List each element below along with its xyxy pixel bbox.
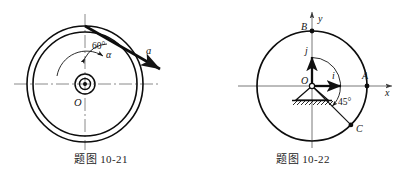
point-b-label: B bbox=[301, 21, 307, 32]
point-c-label: C bbox=[356, 123, 363, 134]
x-axis-label: x bbox=[384, 87, 390, 98]
figure-10-21-canvas: 60° α a O bbox=[0, 0, 202, 150]
unit-vector-i-label: i bbox=[332, 70, 335, 81]
origin-dot bbox=[309, 83, 314, 88]
point-a-label: A bbox=[361, 70, 369, 81]
y-axis-label: y bbox=[317, 13, 323, 24]
angle-60-label: 60° bbox=[92, 41, 106, 51]
angular-acceleration-label: α bbox=[106, 49, 112, 60]
figure-10-22-canvas: x y A B C O i j 45° bbox=[202, 0, 404, 150]
hub-center-dot-icon bbox=[83, 82, 87, 86]
acceleration-label: a bbox=[146, 45, 151, 56]
center-label-O: O bbox=[74, 97, 82, 108]
point-b-dot bbox=[310, 29, 315, 34]
figure-10-21: 60° α a O 题图 10-21 bbox=[0, 0, 202, 181]
unit-vector-j-label: j bbox=[303, 45, 308, 56]
angle-45-label: 45° bbox=[338, 97, 352, 107]
figure-10-22-caption: 题图 10-22 bbox=[202, 150, 404, 166]
figure-10-22: x y A B C O i j 45° 题图 10-22 bbox=[202, 0, 404, 181]
figure-pair-page: 60° α a O 题图 10-21 bbox=[0, 0, 404, 181]
origin-label: O bbox=[301, 75, 308, 86]
figure-10-21-caption: 题图 10-21 bbox=[0, 150, 202, 166]
point-c-dot bbox=[349, 123, 354, 128]
angular-accel-arc-arrow bbox=[57, 51, 103, 76]
point-a-dot bbox=[365, 84, 370, 89]
